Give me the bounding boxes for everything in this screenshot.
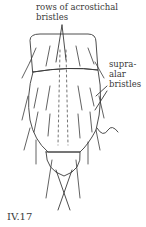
thorax-illustration	[0, 0, 146, 227]
